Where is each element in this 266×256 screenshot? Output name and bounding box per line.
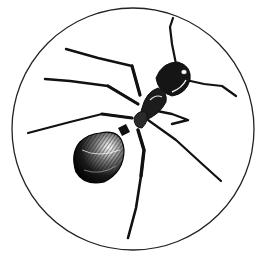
illustration: Ant illustration (engraving style) insid… — [0, 0, 266, 256]
ant-drawing — [0, 0, 266, 256]
frame-circle — [12, 8, 254, 250]
